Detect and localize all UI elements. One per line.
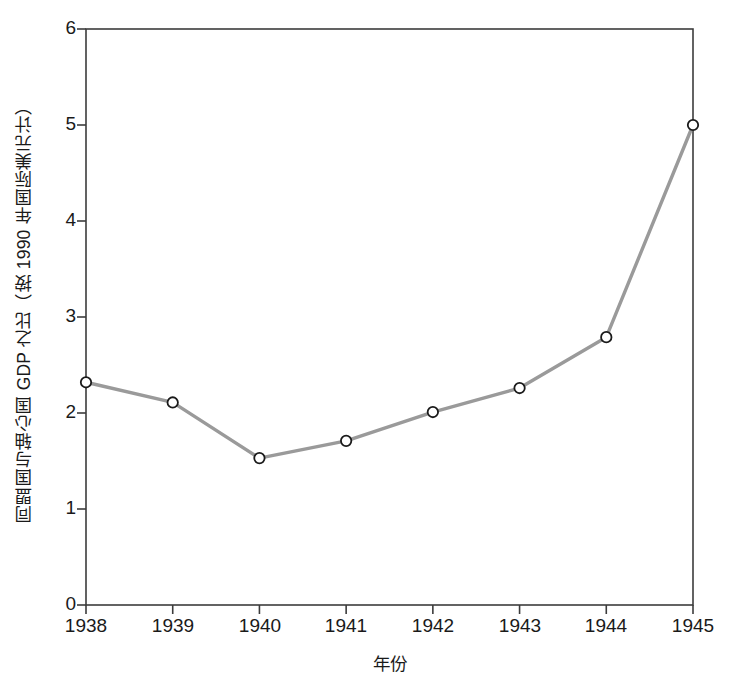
chart-figure: 同盟国与轴心国 GDP 之比（按 1990 年国际美元计） 6 5 4 3 2 … <box>0 0 731 691</box>
data-line <box>86 125 693 458</box>
y-axis-ticks <box>77 29 86 605</box>
data-point-marker <box>514 383 524 393</box>
data-point-marker <box>601 332 611 342</box>
data-point-marker <box>81 377 91 387</box>
data-point-marker <box>254 453 264 463</box>
data-point-marker <box>341 436 351 446</box>
plot-area <box>0 0 731 691</box>
data-point-marker <box>688 120 698 130</box>
data-point-marker <box>428 407 438 417</box>
axis-frame-rect <box>86 29 693 605</box>
data-point-marker <box>168 397 178 407</box>
data-markers <box>81 120 698 464</box>
axis-frame <box>86 29 693 605</box>
x-axis-ticks <box>86 605 693 614</box>
